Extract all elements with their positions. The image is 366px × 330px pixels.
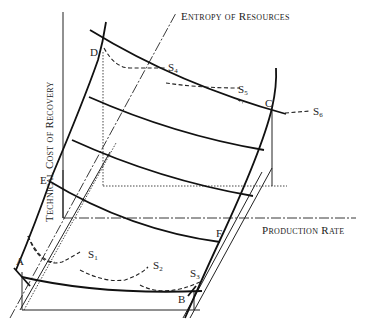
x-axis-label: Production Rate	[262, 224, 344, 236]
entropy-axis-label: Entropy of Resources	[181, 10, 290, 22]
cost-entropy-surface-diagram: Technical Cost of Recovery Production Ra…	[0, 0, 366, 330]
point-label-e: E	[40, 174, 47, 186]
path-label-s3: S3	[190, 267, 200, 281]
entropy-axis	[10, 13, 176, 318]
diagonal-band-right-outer	[190, 168, 272, 318]
path-label-s1: S1	[88, 248, 98, 262]
curve-level-2	[89, 97, 264, 150]
point-label-a: A	[16, 255, 24, 267]
path-s6	[285, 111, 310, 113]
path-s2	[80, 267, 148, 281]
diagonal-guide-left-solid	[20, 152, 110, 310]
path-label-s4: S4	[168, 61, 178, 75]
point-label-c: C	[265, 97, 272, 109]
y-axis-label: Technical Cost of Recovery	[43, 81, 55, 222]
point-label-f: F	[216, 227, 222, 239]
path-label-s5: S5	[238, 83, 248, 97]
path-label-s2: S2	[153, 259, 163, 273]
point-label-b: B	[178, 293, 185, 305]
curve-e-f	[49, 181, 220, 242]
curve-d-c	[90, 30, 286, 114]
point-label-d: D	[90, 46, 98, 58]
curve-level-3	[72, 140, 253, 196]
path-s3	[140, 282, 200, 291]
path-label-s6: S6	[313, 105, 323, 119]
left-boundary-curve	[16, 22, 106, 270]
path-s4	[104, 48, 166, 68]
